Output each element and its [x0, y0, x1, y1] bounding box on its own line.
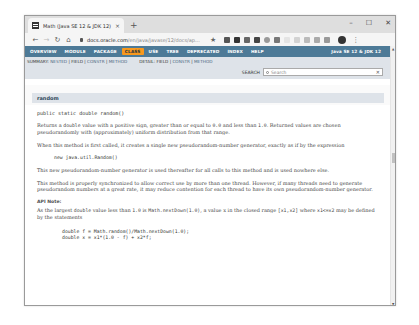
extension-icon[interactable] [254, 37, 260, 43]
page-viewport: OVERVIEW MODULE PACKAGE CLASS USE TREE D… [25, 46, 395, 306]
lock-icon [80, 38, 83, 42]
search-input[interactable]: Search ✕ [263, 68, 383, 76]
home-button[interactable]: ⌂ [63, 36, 74, 44]
summary-constr-link[interactable]: CONSTR [87, 59, 104, 64]
code-example: new java.util.Random() [54, 155, 384, 161]
nav-help[interactable]: HELP [248, 48, 267, 55]
browser-menu-icon[interactable]: ⋮ [352, 36, 359, 44]
address-bar[interactable]: docs.oracle.com/en/java/javase/12/docs/a… [80, 34, 206, 45]
extension-icon[interactable] [224, 37, 230, 43]
extension-icon[interactable] [264, 37, 270, 43]
description-paragraph: Returns a double value with a positive s… [37, 122, 376, 136]
summary-nav: SUMMARY: NESTED | FIELD | CONSTR | METHO… [27, 59, 127, 64]
description-paragraph: This method is properly synchronized to … [37, 180, 376, 193]
scroll-down-icon[interactable]: ▼ [392, 302, 394, 306]
reload-button[interactable]: ↻ [52, 36, 63, 44]
extension-icon[interactable] [314, 37, 320, 43]
tab-math[interactable]: Math (Java SE 12 & JDK 12) × [28, 18, 124, 33]
forward-button[interactable]: → [41, 36, 52, 44]
summary-field: FIELD [71, 59, 83, 64]
profile-avatar[interactable] [338, 36, 346, 44]
search-placeholder: Search [271, 70, 376, 75]
javadoc-top-nav: OVERVIEW MODULE PACKAGE CLASS USE TREE D… [25, 46, 395, 57]
nav-class[interactable]: CLASS [122, 48, 144, 55]
javadoc-sub-nav: SUMMARY: NESTED | FIELD | CONSTR | METHO… [25, 57, 395, 79]
extension-icon[interactable] [244, 37, 250, 43]
description-paragraph: This new pseudorandom-number generator i… [37, 167, 376, 173]
nav-package[interactable]: PACKAGE [91, 48, 120, 55]
nav-index[interactable]: INDEX [224, 48, 246, 55]
browser-toolbar: ← → ↻ ⌂ docs.oracle.com/en/java/javase/1… [25, 33, 395, 46]
extension-icon[interactable] [304, 37, 310, 43]
content-area: random public static double random() Ret… [25, 79, 392, 306]
bookmark-star-icon[interactable]: ★ [210, 36, 216, 44]
tab-title: Math (Java SE 12 & JDK 12) [43, 23, 112, 29]
search-label: SEARCH [242, 70, 260, 75]
description-paragraph: When this method is first called, it cre… [37, 142, 376, 148]
search-reset-icon[interactable]: ✕ [376, 69, 380, 75]
new-tab-button[interactable]: + [130, 19, 138, 31]
detail-field: FIELD [156, 59, 168, 64]
search-icon [266, 71, 269, 74]
window-controls: – ☐ ✕ [349, 19, 391, 27]
java-favicon-icon [32, 22, 39, 29]
detail-constr-link[interactable]: CONSTR [172, 59, 189, 64]
extension-icon[interactable] [274, 37, 280, 43]
summary-method-link[interactable]: METHOD [109, 59, 128, 64]
nav-deprecated[interactable]: DEPRECATED [184, 48, 222, 55]
detail-method-link[interactable]: METHOD [194, 59, 213, 64]
maximize-button[interactable]: ☐ [366, 19, 372, 27]
close-window-button[interactable]: ✕ [385, 19, 391, 27]
url-path: /en/java/javase/12/docs/ap... [128, 37, 200, 43]
back-button[interactable]: ← [30, 36, 41, 44]
nav-module[interactable]: MODULE [62, 48, 89, 55]
tab-strip: Math (Java SE 12 & JDK 12) × + – ☐ ✕ [25, 16, 395, 33]
method-detail-random: random public static double random() Ret… [32, 93, 384, 306]
nav-use[interactable]: USE [146, 48, 162, 55]
version-label: Java SE 12 & JDK 12 [331, 49, 381, 54]
detail-label: DETAIL: [139, 59, 155, 64]
nav-tree[interactable]: TREE [163, 48, 182, 55]
page-scrollbar[interactable]: ▲ ▼ [390, 46, 395, 306]
summary-nested-link[interactable]: NESTED [50, 59, 67, 64]
extension-icon[interactable] [294, 37, 300, 43]
nav-overview[interactable]: OVERVIEW [27, 48, 60, 55]
summary-label: SUMMARY: [27, 59, 49, 64]
scrollbar-thumb[interactable] [392, 153, 395, 163]
code-example: double f = Math.random()/Math.nextDown(1… [62, 229, 384, 242]
method-name-heading: random [32, 93, 384, 103]
browser-window: Math (Java SE 12 & JDK 12) × + – ☐ ✕ ← →… [24, 15, 396, 306]
api-note-paragraph: As the largest double value less than 1.… [37, 207, 376, 221]
method-signature: public static double random() [37, 110, 384, 116]
extension-icon[interactable] [324, 37, 330, 43]
minimize-button[interactable]: – [349, 19, 353, 27]
api-note-label: API Note: [37, 199, 384, 204]
extension-icon[interactable] [234, 37, 240, 43]
extension-icons [224, 37, 330, 43]
detail-nav: DETAIL: FIELD | CONSTR | METHOD [139, 59, 212, 64]
url-host: docs.oracle.com [87, 37, 128, 43]
tab-close-icon[interactable]: × [115, 22, 120, 29]
extension-icon[interactable] [284, 37, 290, 43]
scroll-up-icon[interactable]: ▲ [392, 47, 394, 51]
